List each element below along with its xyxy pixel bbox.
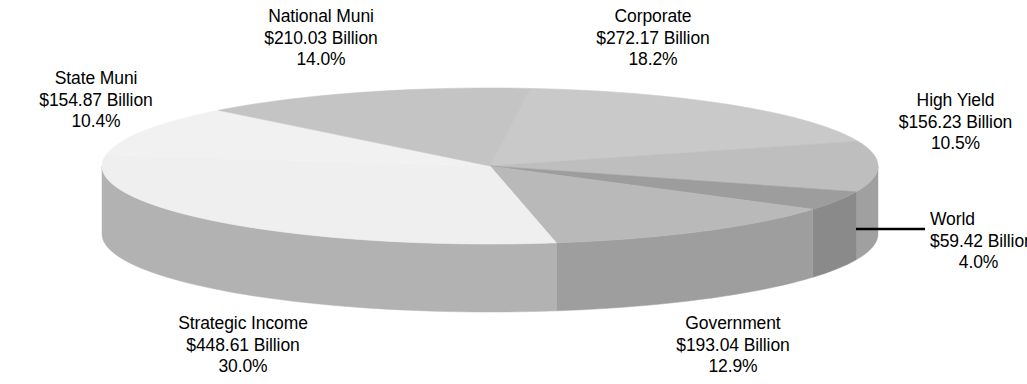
- slice-label-government: Government $193.04 Billion 12.9%: [638, 313, 828, 378]
- slice-label-name: World: [930, 209, 1027, 231]
- slice-label-name: Corporate: [558, 6, 748, 28]
- slice-label-high-yield: High Yield $156.23 Billion 10.5%: [884, 90, 1027, 155]
- slice-label-value: $193.04 Billion: [638, 335, 828, 357]
- slice-label-name: High Yield: [884, 90, 1027, 112]
- slice-label-value: $156.23 Billion: [884, 112, 1027, 134]
- pie-geometry: [102, 88, 878, 312]
- slice-label-value: $59.42 Billion: [930, 231, 1027, 253]
- slice-label-strategic-income: Strategic Income $448.61 Billion 30.0%: [148, 313, 338, 378]
- slice-label-value: $210.03 Billion: [226, 28, 416, 50]
- slice-label-corporate: Corporate $272.17 Billion 18.2%: [558, 6, 748, 71]
- slice-label-world: World $59.42 Billion 4.0%: [930, 209, 1027, 274]
- slice-label-percent: 12.9%: [638, 356, 828, 378]
- slice-label-percent: 4.0%: [930, 252, 1027, 274]
- slice-label-percent: 10.4%: [8, 111, 184, 133]
- slice-label-percent: 18.2%: [558, 49, 748, 71]
- slice-label-state-muni: State Muni $154.87 Billion 10.4%: [8, 68, 184, 133]
- slice-label-value: $448.61 Billion: [148, 335, 338, 357]
- pie-chart: National Muni $210.03 Billion 14.0% Corp…: [0, 0, 1027, 384]
- slice-label-percent: 30.0%: [148, 356, 338, 378]
- slice-label-percent: 10.5%: [884, 133, 1027, 155]
- slice-label-name: Strategic Income: [148, 313, 338, 335]
- slice-label-name: State Muni: [8, 68, 184, 90]
- slice-label-name: Government: [638, 313, 828, 335]
- slice-label-value: $272.17 Billion: [558, 28, 748, 50]
- slice-label-percent: 14.0%: [226, 49, 416, 71]
- slice-label-name: National Muni: [226, 6, 416, 28]
- slice-label-value: $154.87 Billion: [8, 90, 184, 112]
- slice-label-national-muni: National Muni $210.03 Billion 14.0%: [226, 6, 416, 71]
